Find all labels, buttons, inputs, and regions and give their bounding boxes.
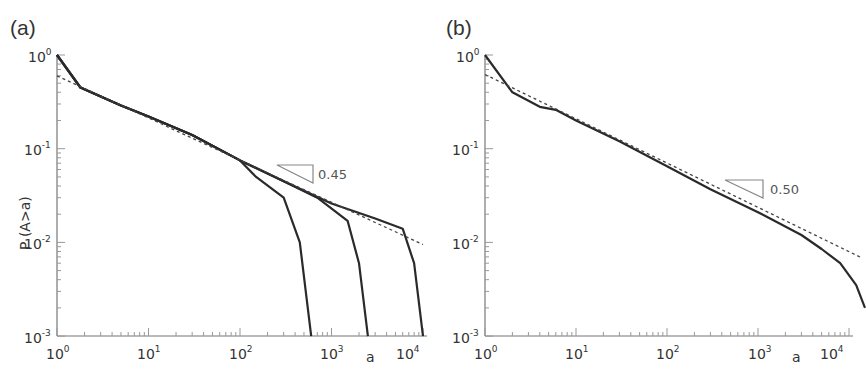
y-tick-label: 100: [28, 47, 52, 65]
data-line: [57, 55, 311, 336]
fit-line: [485, 75, 862, 259]
data-line: [485, 55, 865, 308]
y-tick-label: 10-1: [24, 140, 51, 158]
panel-a: (a) 100 10-1 10-2 10-3 100 101 102 103 1…: [10, 16, 427, 365]
y-axis-title: P (A>a): [17, 196, 33, 250]
x-tick-label: 101: [565, 344, 589, 362]
y-tick-label: 10-1: [452, 140, 479, 158]
y-tick-label: 10-2: [452, 234, 479, 252]
x-tick-label: 102: [656, 344, 680, 362]
x-tick-label: 104: [396, 344, 420, 362]
plot-lines: [485, 55, 865, 308]
data-line: [57, 55, 423, 336]
panel-b: (b) 100 10-1 10-2 10-3 100 101 102 103 1…: [446, 16, 865, 365]
panel-b-label: (b): [446, 16, 472, 39]
x-tick-label: 104: [820, 344, 844, 362]
x-tick-label: 102: [229, 344, 253, 362]
x-tick-label: 103: [320, 344, 344, 362]
x-axis-title: a: [792, 349, 801, 365]
y-tick-label: 10-3: [452, 328, 479, 346]
x-axis-title: a: [366, 349, 375, 365]
panel-a-label: (a): [10, 16, 36, 39]
x-tick-label: 100: [474, 344, 498, 362]
plot-lines: [57, 55, 423, 336]
figure: (a) 100 10-1 10-2 10-3 100 101 102 103 1…: [0, 0, 866, 370]
slope-triangle-icon: [725, 180, 763, 198]
y-tick-label: 10-3: [24, 328, 51, 346]
axis-ticks: [57, 55, 423, 336]
x-tick-label: 103: [748, 344, 772, 362]
slope-label: 0.45: [318, 167, 347, 182]
x-tick-label: 101: [137, 344, 161, 362]
slope-label: 0.50: [770, 182, 799, 197]
x-tick-label: 100: [46, 344, 70, 362]
y-tick-label: 100: [456, 47, 480, 65]
